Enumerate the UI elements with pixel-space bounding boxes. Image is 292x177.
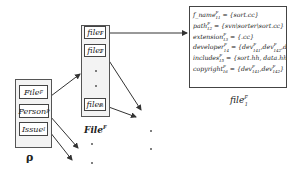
attr-row: includesF15 = {sort.hh, data.hh} (193, 53, 283, 64)
ellipsis-dot (91, 143, 93, 145)
rho-item-label: Issue (22, 125, 43, 134)
ellipsis-dot (91, 162, 93, 164)
attr-row: f_nameF11 = {sort.cc} (193, 10, 283, 21)
rho-caption: ρ (26, 151, 33, 164)
rho-item-label: Person (18, 107, 46, 116)
attr-row: developerF14 = {devF141,devF142,devF143} (193, 42, 283, 53)
ellipsis-dot (150, 130, 152, 132)
file-set-item-2: fileF2 (84, 44, 106, 57)
rho-item-person: PersonP (19, 104, 49, 118)
attr-row: pathF12 = {svn\sorter\sort.cc} (193, 21, 283, 32)
file1-attributes-box: f_nameF11 = {sort.cc} pathF12 = {svn\sor… (189, 6, 287, 88)
ellipsis-dot (95, 85, 97, 87)
attr-row: copyrightF16 = {devF141,devF142} (193, 64, 283, 75)
file1-caption: fileF1 (230, 94, 248, 107)
rho-item-label: File (24, 88, 39, 97)
attr-row: extensionF13 = {.cc} (193, 32, 283, 43)
file-set-item-m: fileFm (84, 98, 106, 111)
rho-item-file: FileF (19, 85, 48, 99)
rho-item-issue: IssueI (19, 122, 48, 136)
ellipsis-dot (150, 148, 152, 150)
file-set-caption: FileF (84, 124, 107, 135)
ellipsis-dot (95, 70, 97, 72)
file-set-item-1: fileF1 (84, 26, 106, 39)
